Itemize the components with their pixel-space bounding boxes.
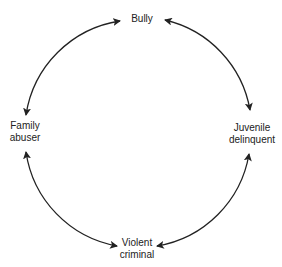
node-family-line2: abuser	[4, 132, 46, 144]
node-violent-line1: Violent	[117, 237, 157, 249]
node-violent-criminal: Violent criminal	[117, 237, 157, 261]
arrow-bully-juvenile	[165, 20, 250, 110]
node-violent-line2: criminal	[117, 249, 157, 261]
arrow-violent-family	[26, 152, 117, 246]
arrow-family-bully	[26, 21, 120, 115]
node-juvenile-line1: Juvenile	[226, 122, 278, 134]
node-bully: Bully	[122, 13, 162, 25]
node-bully-label: Bully	[131, 13, 153, 24]
node-juvenile-delinquent: Juvenile delinquent	[226, 122, 278, 146]
node-family-line1: Family	[4, 120, 46, 132]
node-juvenile-line2: delinquent	[226, 134, 278, 146]
cycle-diagram: Bully Juvenile delinquent Violent crimin…	[0, 0, 282, 267]
arrow-juvenile-violent	[157, 154, 249, 246]
node-family-abuser: Family abuser	[4, 120, 46, 144]
